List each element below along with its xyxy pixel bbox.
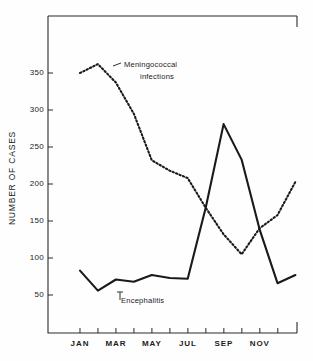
y-tick-label: 200	[20, 179, 44, 188]
x-tick-label: JAN	[65, 339, 95, 348]
y-axis-label: NUMBER OF CASES	[7, 131, 17, 225]
y-tick-label: 250	[20, 142, 44, 151]
y-tick-label: 350	[20, 68, 44, 77]
chart-figure: NUMBER OF CASES 50100150200250300350 JAN…	[0, 0, 313, 361]
y-axis-label-wrap: NUMBER OF CASES	[4, 118, 20, 238]
x-axis-ticks	[80, 328, 278, 333]
annotation-leaders	[113, 63, 123, 300]
y-tick-label: 150	[20, 216, 44, 225]
x-tick-label: JUL	[173, 339, 203, 348]
series-encephalitis	[80, 124, 295, 291]
annotation-encephalitis: Encephalitis	[121, 296, 164, 305]
x-tick-label: MAY	[137, 339, 167, 348]
annotation-meningococcal-line1: Meningococcal	[124, 60, 177, 69]
y-tick-label: 300	[20, 105, 44, 114]
x-tick-label: NOV	[245, 339, 275, 348]
y-axis-ticks	[48, 73, 53, 295]
x-tick-label: MAR	[101, 339, 131, 348]
y-tick-label: 100	[20, 253, 44, 262]
y-tick-label: 50	[20, 290, 44, 299]
annotation-meningococcal-line2: infections	[140, 72, 174, 81]
line-chart-canvas	[0, 0, 313, 361]
x-tick-label: SEP	[209, 339, 239, 348]
series-meningococcal	[80, 64, 295, 254]
